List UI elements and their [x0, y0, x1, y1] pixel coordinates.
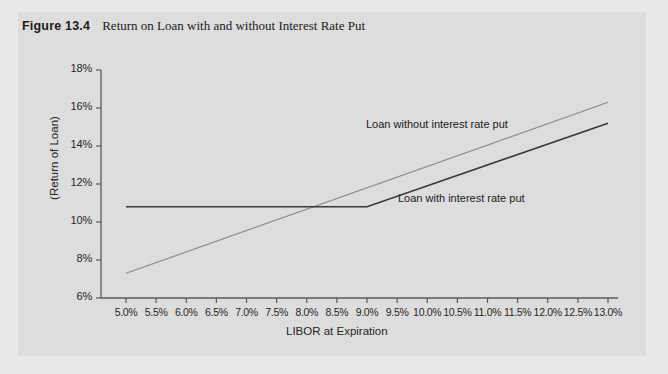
- y-axis-tick-label: 14%: [58, 138, 92, 150]
- figure-panel: [18, 12, 646, 356]
- y-axis-tick-label: 6%: [58, 290, 92, 302]
- figure-caption: Return on Loan with and without Interest…: [102, 18, 365, 33]
- x-axis-title: LIBOR at Expiration: [286, 325, 388, 337]
- y-axis-tick-label: 16%: [58, 100, 92, 112]
- annotation-loan-without-put: Loan without interest rate put: [366, 118, 508, 130]
- y-axis-tick-label: 18%: [58, 62, 92, 74]
- y-axis-tick-label: 10%: [58, 214, 92, 226]
- y-axis-title: (Return of Loan): [48, 98, 60, 218]
- y-axis-tick-label: 12%: [58, 176, 92, 188]
- x-axis-tick-label: 13.0%: [588, 306, 628, 318]
- figure-number: Figure 13.4: [22, 19, 90, 33]
- figure-title: Figure 13.4Return on Loan with and witho…: [22, 16, 365, 34]
- annotation-loan-with-put: Loan with interest rate put: [398, 192, 525, 204]
- y-axis-tick-label: 8%: [58, 252, 92, 264]
